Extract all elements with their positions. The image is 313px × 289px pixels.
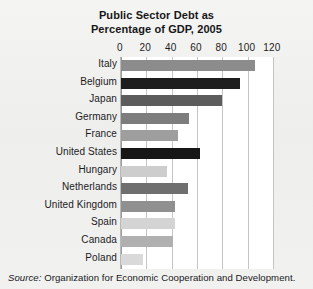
chart-title-line-1: Public Sector Debt as [0,9,313,23]
bar-row: France [0,127,313,145]
source-prefix: Source: [8,272,41,283]
bar-spain [121,218,175,229]
bar-row: United States [0,145,313,163]
bar-row: Hungary [0,163,313,181]
category-label-united-states: United States [56,146,117,157]
bar-row: Italy [0,57,313,75]
bar-united-kingdom [121,201,175,212]
bar-row: Netherlands [0,180,313,198]
x-axis-tick-labels: 020406080100120 [0,42,313,56]
x-tick-label-100: 100 [238,42,255,53]
bar-canada [121,236,173,247]
bar-germany [121,113,189,124]
x-tick-label-60: 60 [190,42,202,53]
bar-row: Belgium [0,75,313,93]
category-label-france: France [85,128,117,139]
category-label-canada: Canada [81,234,117,245]
bar-row: Spain [0,215,313,233]
bar-hungary [121,166,167,177]
bar-netherlands [121,183,188,194]
chart-figure: Public Sector Debt as Percentage of GDP,… [0,0,313,289]
x-tick-label-20: 20 [140,42,152,53]
chart-title: Public Sector Debt as Percentage of GDP,… [0,9,313,36]
category-label-spain: Spain [91,216,117,227]
chart-title-line-2: Percentage of GDP, 2005 [0,23,313,37]
category-label-belgium: Belgium [80,76,117,87]
source-text: Organization for Economic Cooperation an… [44,272,295,283]
bar-italy [121,60,255,71]
x-tick-label-120: 120 [263,42,280,53]
category-label-poland: Poland [85,252,117,263]
bar-japan [121,95,222,106]
category-label-italy: Italy [98,58,117,69]
category-label-united-kingdom: United Kingdom [44,199,117,210]
bar-united-states [121,148,200,159]
bar-row: Germany [0,110,313,128]
bar-rows: ItalyBelgiumJapanGermanyFranceUnited Sta… [0,57,313,269]
bar-row: United Kingdom [0,198,313,216]
bar-row: Poland [0,251,313,269]
source-caption: Source: Organization for Economic Cooper… [8,272,308,283]
category-label-japan: Japan [89,93,117,104]
x-tick-label-80: 80 [216,42,228,53]
category-label-germany: Germany [75,111,117,122]
bar-row: Japan [0,92,313,110]
bar-poland [121,254,143,265]
bar-row: Canada [0,233,313,251]
category-label-netherlands: Netherlands [62,181,117,192]
category-label-hungary: Hungary [79,164,118,175]
x-tick-label-0: 0 [117,42,123,53]
bar-belgium [121,78,240,89]
x-tick-label-40: 40 [165,42,177,53]
bar-france [121,130,178,141]
